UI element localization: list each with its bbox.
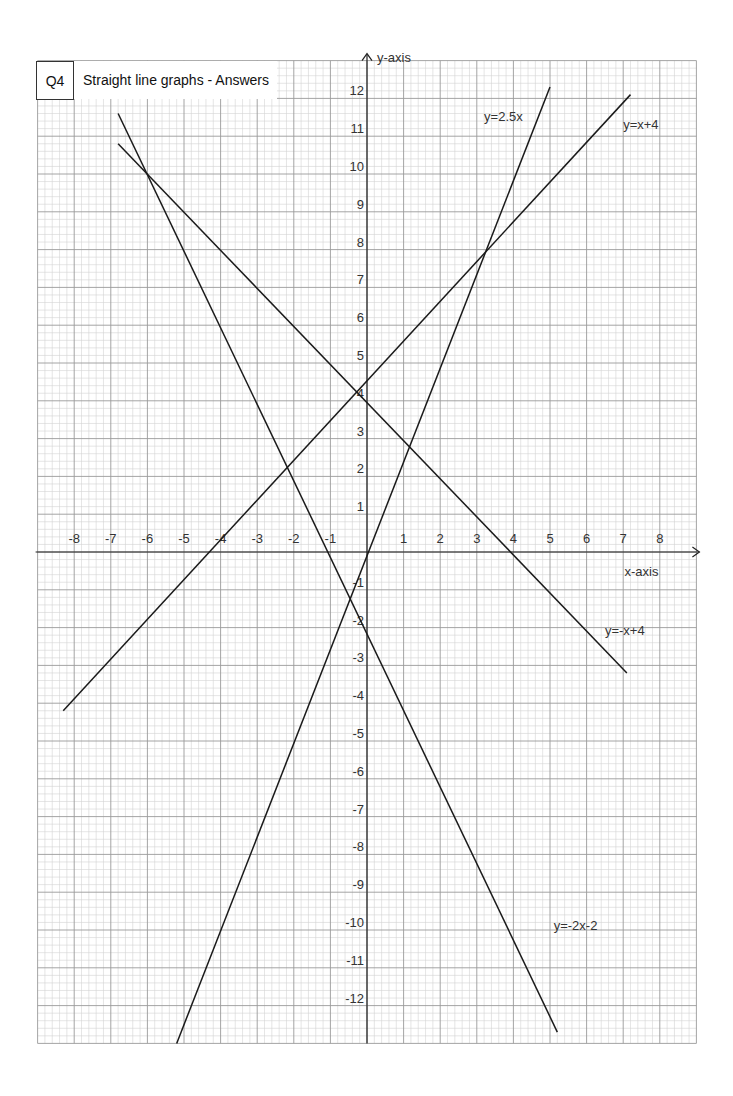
svg-text:y=-x+4: y=-x+4 xyxy=(605,623,645,638)
svg-text:-7: -7 xyxy=(105,531,117,546)
svg-text:y=x+4: y=x+4 xyxy=(623,117,658,132)
axes xyxy=(36,54,700,1044)
svg-text:-10: -10 xyxy=(345,915,364,930)
svg-text:-4: -4 xyxy=(352,688,364,703)
svg-text:8: 8 xyxy=(656,531,663,546)
line-labels: y=2.5xy=x+4y=-x+4y=-2x-2 xyxy=(484,109,659,933)
svg-text:5: 5 xyxy=(546,531,553,546)
svg-text:6: 6 xyxy=(357,310,364,325)
svg-text:3: 3 xyxy=(357,424,364,439)
svg-text:-6: -6 xyxy=(352,764,364,779)
svg-text:-5: -5 xyxy=(178,531,190,546)
svg-text:-5: -5 xyxy=(352,726,364,741)
svg-text:-11: -11 xyxy=(346,953,364,968)
svg-text:y-axis: y-axis xyxy=(377,50,411,65)
svg-text:x-axis: x-axis xyxy=(625,564,659,579)
page-title: Straight line graphs - Answers xyxy=(74,61,277,99)
svg-text:-2: -2 xyxy=(288,531,300,546)
svg-text:7: 7 xyxy=(620,531,627,546)
graph-paper-chart: -8-7-6-5-4-3-2-112345678121110987654321-… xyxy=(0,0,733,1096)
svg-text:-1: -1 xyxy=(325,531,337,546)
svg-text:7: 7 xyxy=(357,272,364,287)
svg-text:5: 5 xyxy=(357,348,364,363)
svg-text:6: 6 xyxy=(583,531,590,546)
svg-text:-3: -3 xyxy=(352,650,364,665)
svg-text:9: 9 xyxy=(357,197,364,212)
svg-text:4: 4 xyxy=(510,531,517,546)
svg-text:-9: -9 xyxy=(352,877,364,892)
svg-text:-6: -6 xyxy=(142,531,154,546)
svg-text:-7: -7 xyxy=(352,802,364,817)
question-header: Q4 Straight line graphs - Answers xyxy=(36,61,277,99)
svg-text:1: 1 xyxy=(357,499,364,514)
svg-text:-12: -12 xyxy=(345,991,364,1006)
question-number: Q4 xyxy=(36,61,74,100)
svg-text:-8: -8 xyxy=(68,531,80,546)
svg-text:y=-2x-2: y=-2x-2 xyxy=(554,918,598,933)
svg-text:-3: -3 xyxy=(251,531,263,546)
svg-text:11: 11 xyxy=(351,121,365,136)
svg-text:10: 10 xyxy=(350,159,364,174)
svg-text:2: 2 xyxy=(357,461,364,476)
svg-text:3: 3 xyxy=(473,531,480,546)
svg-text:y=2.5x: y=2.5x xyxy=(484,109,523,124)
svg-text:8: 8 xyxy=(357,235,364,250)
svg-text:12: 12 xyxy=(350,83,364,98)
svg-text:1: 1 xyxy=(400,531,407,546)
svg-text:-8: -8 xyxy=(352,839,364,854)
svg-text:2: 2 xyxy=(437,531,444,546)
